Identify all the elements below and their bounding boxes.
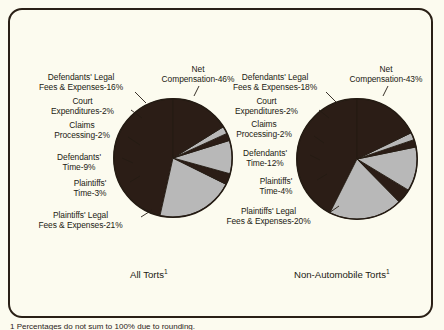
caption-superscript: 1 xyxy=(164,268,168,275)
figure-canvas: Net Compensation-46% Defendants' Legal F… xyxy=(0,0,444,330)
panel-caption-all-torts: All Torts1 xyxy=(130,268,168,280)
panel-caption-non-automobile-torts: Non-Automobile Torts1 xyxy=(294,268,390,280)
pie-panel-all-torts: Net Compensation-46% Defendants' Legal F… xyxy=(0,0,222,330)
pie-panel-non-automobile-torts: Net Compensation-43% Defendants' Legal F… xyxy=(222,0,444,330)
pie-leader-lines-all-torts xyxy=(0,0,222,330)
caption-text: All Torts xyxy=(130,269,164,280)
pie-leader-lines-non-automobile-torts xyxy=(222,0,444,330)
figure-footnote: 1 Percentages do not sum to 100% due to … xyxy=(10,322,195,330)
caption-text: Non-Automobile Torts xyxy=(294,269,386,280)
caption-superscript: 1 xyxy=(386,268,390,275)
